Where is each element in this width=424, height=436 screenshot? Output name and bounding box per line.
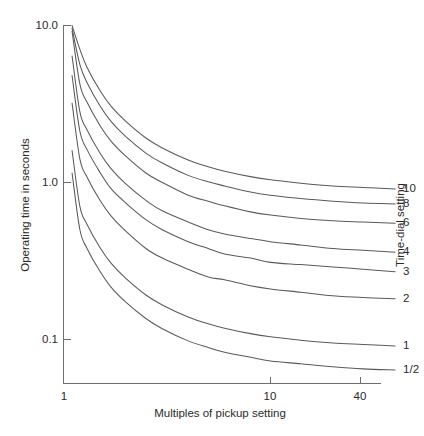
y-axis-title: Operating time in seconds [19, 138, 31, 272]
curve-label-8: 8 [403, 197, 409, 209]
x-axis-ticks [271, 377, 361, 384]
chart-figure: 10.0 1.0 0.1 1 10 40 Multiples of pickup… [0, 0, 424, 436]
y-tick-label-1: 1.0 [42, 176, 58, 188]
x-tick-label-10: 10 [264, 390, 277, 402]
curve-time-dial-6 [72, 31, 395, 223]
x-tick-label-1: 1 [61, 390, 67, 402]
curve-label-1: 1 [403, 339, 409, 351]
curve-label-4: 4 [403, 245, 410, 257]
curve-label-2: 2 [403, 292, 409, 304]
characteristic-curves-plot: 10.0 1.0 0.1 1 10 40 Multiples of pickup… [0, 0, 424, 436]
curve-label-1-2: 1/2 [403, 363, 419, 375]
y-axis-ticks [64, 26, 72, 340]
curve-label-10: 10 [403, 182, 416, 194]
curve-series-group [72, 26, 395, 370]
x-axis-title: Multiples of pickup setting [154, 407, 286, 419]
curve-label-3: 3 [403, 265, 409, 277]
curve-time-dial-4 [72, 56, 395, 252]
curve-time-dial-1 [72, 150, 395, 345]
x-tick-label-40: 40 [354, 390, 367, 402]
y-tick-label-10: 10.0 [36, 19, 58, 31]
y-tick-label-0-1: 0.1 [42, 333, 58, 345]
curve-time-dial-10 [72, 26, 395, 189]
curve-time-dial-2 [72, 103, 395, 298]
curve-label-6: 6 [403, 216, 409, 228]
